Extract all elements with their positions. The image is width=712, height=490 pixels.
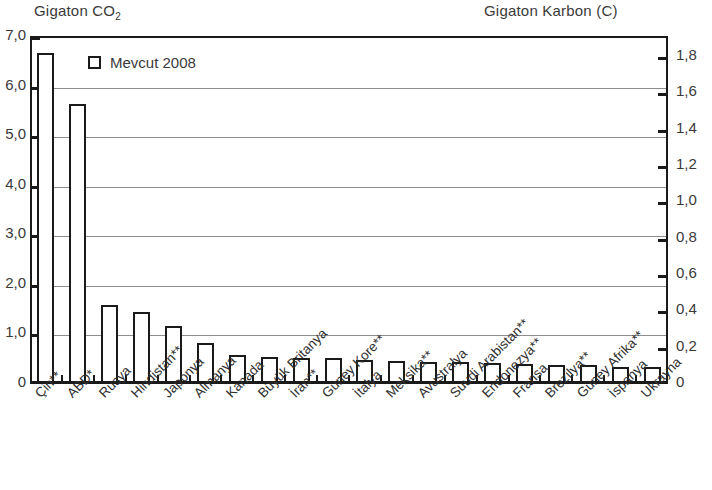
bar-slot[interactable] — [101, 36, 118, 383]
y-axis-label-left: 5,0 — [0, 125, 26, 142]
bar-slot[interactable] — [356, 36, 373, 383]
bar-slot[interactable] — [452, 36, 469, 383]
bar-slot[interactable] — [69, 36, 86, 383]
bar-slot[interactable] — [420, 36, 437, 383]
y-axis-label-right: 1,0 — [676, 191, 712, 208]
y-axis-label-left: 0 — [0, 373, 26, 390]
bar-slot[interactable] — [484, 36, 501, 383]
bar-slot[interactable] — [548, 36, 565, 383]
legend-label: Mevcut 2008 — [110, 54, 196, 71]
legend-swatch-icon — [88, 56, 101, 69]
y-axis-label-left: 3,0 — [0, 224, 26, 241]
bar-slot[interactable] — [261, 36, 278, 383]
y-axis-label-left: 1,0 — [0, 323, 26, 340]
bar-chart: Gigaton CO2 Gigaton Karbon (C) Mevcut 20… — [0, 0, 712, 490]
bar-slot[interactable] — [580, 36, 597, 383]
bar-slot[interactable] — [229, 36, 246, 383]
bar-slot[interactable] — [644, 36, 661, 383]
y-axis-label-right: 0,2 — [676, 337, 712, 354]
right-axis-title: Gigaton Karbon (C) — [484, 2, 618, 19]
bar-slot[interactable] — [165, 36, 182, 383]
y-axis-label-right: 1,6 — [676, 82, 712, 99]
bar-slot[interactable] — [133, 36, 150, 383]
category-axis-labels: Çin**ABD*RusyaHindistan**JaponyaAlmanyaK… — [0, 386, 712, 490]
bar-slot[interactable] — [325, 36, 342, 383]
left-axis-title-text: Gigaton CO — [34, 2, 115, 19]
y-axis-label-left: 6,0 — [0, 76, 26, 93]
y-axis-label-right: 1,2 — [676, 155, 712, 172]
bar[interactable] — [37, 53, 54, 383]
y-axis-label-right: 0 — [676, 373, 712, 390]
bar-slot[interactable] — [197, 36, 214, 383]
y-axis-label-right: 1,4 — [676, 119, 712, 136]
y-axis-label-right: 0,6 — [676, 264, 712, 281]
bars-container — [30, 36, 668, 383]
y-axis-label-left: 2,0 — [0, 274, 26, 291]
bar-slot[interactable] — [37, 36, 54, 383]
y-axis-label-left: 4,0 — [0, 175, 26, 192]
y-axis-label-right: 0,4 — [676, 300, 712, 317]
co2-subscript: 2 — [115, 11, 121, 22]
legend: Mevcut 2008 — [88, 54, 196, 71]
y-axis-label-left: 7,0 — [0, 26, 26, 43]
bar-slot[interactable] — [293, 36, 310, 383]
y-axis-label-right: 0,8 — [676, 228, 712, 245]
bar-slot[interactable] — [612, 36, 629, 383]
bar-slot[interactable] — [388, 36, 405, 383]
y-axis-label-right: 1,8 — [676, 46, 712, 63]
bar[interactable] — [69, 104, 86, 383]
left-axis-title: Gigaton CO2 — [34, 2, 121, 22]
